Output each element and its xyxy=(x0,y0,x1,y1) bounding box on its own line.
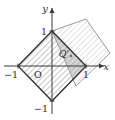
math-figure: x y O −1 1 1 −1 Q' xyxy=(0,0,115,120)
x-tick-label-pos-one: 1 xyxy=(83,69,89,80)
y-axis-label: y xyxy=(41,3,48,14)
y-tick-label-pos-one: 1 xyxy=(41,26,47,37)
x-tick-label-neg-one: −1 xyxy=(4,69,18,80)
region-label-q-prime: Q' xyxy=(59,48,69,59)
y-axis-arrow xyxy=(49,8,54,13)
q-prime-marker xyxy=(70,55,73,58)
coordinate-plane-svg: x y O −1 1 1 −1 Q' xyxy=(0,0,115,120)
y-tick-label-neg-one: −1 xyxy=(34,103,48,114)
origin-label: O xyxy=(34,69,42,80)
x-axis-label: x xyxy=(103,61,109,72)
